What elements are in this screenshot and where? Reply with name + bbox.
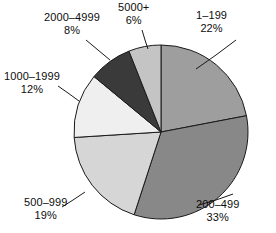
- pie-label-percent: 22%: [196, 22, 227, 35]
- pie-label-category: 1000–1999: [4, 70, 60, 83]
- pie-label-1-199: 1–199 22%: [196, 9, 227, 35]
- pie-label-category: 2000–4999: [44, 11, 100, 24]
- pie-chart: 1–199 22% 200–499 33% 500–999 19% 1000–1…: [0, 0, 276, 233]
- pie-label-percent: 6%: [118, 14, 149, 27]
- pie-label-5000plus: 5000+ 6%: [118, 1, 149, 27]
- leader-line-1000-1999: [58, 86, 79, 101]
- pie-label-percent: 8%: [44, 24, 100, 37]
- pie-label-category: 1–199: [196, 9, 227, 22]
- pie-label-percent: 12%: [4, 83, 60, 96]
- pie-label-2000-4999: 2000–4999 8%: [44, 11, 100, 37]
- pie-label-percent: 19%: [24, 209, 68, 222]
- leader-line-2000-4999: [86, 40, 110, 60]
- pie-label-200-499: 200–499 33%: [196, 198, 240, 224]
- pie-label-percent: 33%: [196, 211, 240, 224]
- pie-label-1000-1999: 1000–1999 12%: [4, 70, 60, 96]
- pie-slices-group: [74, 45, 248, 219]
- pie-label-500-999: 500–999 19%: [24, 196, 68, 222]
- pie-label-category: 5000+: [118, 1, 149, 14]
- pie-label-category: 500–999: [24, 196, 68, 209]
- pie-label-category: 200–499: [196, 198, 240, 211]
